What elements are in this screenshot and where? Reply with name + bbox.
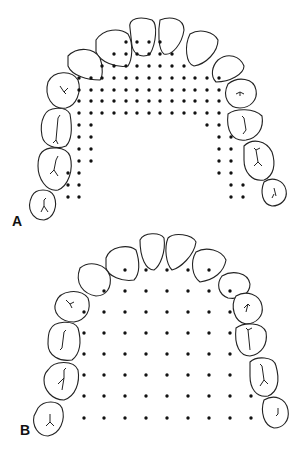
tooth bbox=[244, 141, 274, 180]
panel-b-label: B bbox=[20, 422, 30, 438]
tooth bbox=[226, 79, 257, 108]
tooth bbox=[187, 31, 218, 66]
panel-a-arch bbox=[30, 18, 287, 220]
tooth bbox=[34, 402, 64, 436]
tooth bbox=[140, 234, 164, 270]
tooth bbox=[130, 18, 156, 56]
tooth bbox=[262, 179, 286, 206]
dental-arch-diagram bbox=[0, 0, 305, 449]
tooth bbox=[212, 56, 244, 82]
tooth bbox=[106, 247, 139, 281]
tooth bbox=[166, 235, 196, 270]
tooth bbox=[262, 397, 288, 428]
tooth bbox=[48, 322, 80, 360]
panel-b-arch bbox=[34, 234, 289, 436]
tooth bbox=[233, 293, 262, 324]
panel-a-label: A bbox=[12, 213, 22, 229]
tooth bbox=[159, 18, 184, 54]
tooth bbox=[55, 292, 89, 322]
tooth bbox=[30, 190, 56, 220]
tooth bbox=[41, 108, 71, 147]
